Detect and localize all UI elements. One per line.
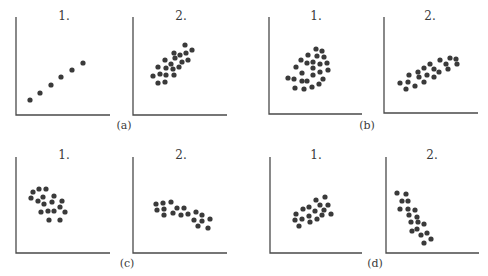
data-point bbox=[293, 211, 298, 216]
data-point bbox=[427, 61, 432, 66]
data-point bbox=[193, 209, 198, 214]
data-point bbox=[316, 81, 321, 86]
data-point bbox=[421, 65, 426, 70]
data-point bbox=[292, 85, 297, 90]
data-point bbox=[178, 212, 183, 217]
data-point bbox=[415, 69, 420, 74]
data-point bbox=[172, 55, 177, 60]
data-point bbox=[321, 207, 326, 212]
data-point bbox=[397, 206, 402, 211]
scatter-plot-c-1 bbox=[16, 157, 110, 253]
data-point bbox=[319, 48, 324, 53]
panel-title: 1. bbox=[310, 9, 321, 23]
data-point bbox=[174, 205, 179, 210]
data-point bbox=[162, 79, 167, 84]
data-point bbox=[317, 202, 322, 207]
data-point bbox=[207, 216, 212, 221]
data-point bbox=[431, 66, 436, 71]
data-point bbox=[310, 65, 315, 70]
data-point bbox=[285, 75, 290, 80]
data-point bbox=[62, 209, 67, 214]
data-point bbox=[41, 201, 46, 206]
data-point bbox=[414, 226, 419, 231]
data-point bbox=[181, 205, 186, 210]
data-point bbox=[453, 56, 458, 61]
data-point bbox=[157, 71, 162, 76]
data-point bbox=[154, 207, 159, 212]
data-point bbox=[443, 61, 448, 66]
data-point bbox=[189, 47, 194, 52]
data-point bbox=[437, 57, 442, 62]
panel-title: 2. bbox=[424, 9, 435, 23]
data-point bbox=[394, 190, 399, 195]
data-point bbox=[414, 214, 419, 219]
data-point bbox=[298, 57, 303, 62]
data-point bbox=[299, 216, 304, 221]
data-point bbox=[317, 61, 322, 66]
scatter-plot-a-2 bbox=[133, 17, 227, 115]
data-point bbox=[409, 228, 414, 233]
data-point bbox=[397, 80, 402, 85]
data-point bbox=[436, 69, 441, 74]
data-point bbox=[306, 204, 311, 209]
data-point bbox=[310, 59, 315, 64]
data-point bbox=[30, 189, 35, 194]
data-point bbox=[412, 207, 417, 212]
data-point bbox=[51, 208, 56, 213]
group-label: (c) bbox=[120, 257, 135, 270]
panel-title: 1. bbox=[310, 148, 321, 162]
data-point bbox=[292, 217, 297, 222]
panel-title: 2. bbox=[175, 9, 186, 23]
data-point bbox=[155, 80, 160, 85]
group-labels: (a)(b)(c)(d) bbox=[116, 119, 382, 270]
data-point bbox=[416, 74, 421, 79]
data-point bbox=[445, 66, 450, 71]
data-point bbox=[305, 52, 310, 57]
data-point bbox=[49, 199, 54, 204]
data-point bbox=[171, 50, 176, 55]
data-point bbox=[406, 212, 411, 217]
data-point bbox=[322, 194, 327, 199]
data-point bbox=[325, 67, 330, 72]
data-point bbox=[80, 60, 85, 65]
data-point bbox=[421, 221, 426, 226]
data-point bbox=[403, 86, 408, 91]
data-point bbox=[179, 59, 184, 64]
data-point bbox=[48, 82, 53, 87]
data-point bbox=[57, 217, 62, 222]
data-point bbox=[313, 46, 318, 51]
data-point bbox=[27, 97, 32, 102]
panel-title: 2. bbox=[426, 148, 437, 162]
data-point bbox=[421, 240, 426, 245]
group-label: (a) bbox=[116, 119, 131, 132]
data-point bbox=[170, 66, 175, 71]
data-point bbox=[161, 206, 166, 211]
data-point bbox=[328, 211, 333, 216]
group-label: (b) bbox=[359, 119, 375, 132]
data-point bbox=[317, 69, 322, 74]
data-point bbox=[310, 72, 315, 77]
data-point bbox=[205, 225, 210, 230]
plot-axes bbox=[16, 157, 110, 253]
data-point bbox=[314, 53, 319, 58]
panel-title: 1. bbox=[58, 148, 69, 162]
data-point bbox=[199, 212, 204, 217]
data-point bbox=[431, 74, 436, 79]
data-point bbox=[309, 84, 314, 89]
data-point bbox=[304, 60, 309, 65]
scatter-plot-b-2 bbox=[384, 17, 478, 113]
data-point bbox=[195, 223, 200, 228]
data-point bbox=[177, 52, 182, 57]
plot-axes bbox=[133, 157, 227, 253]
panel-titles: 1.2.1.2.1.2.1.2. bbox=[58, 9, 437, 162]
data-point bbox=[293, 64, 298, 69]
data-point bbox=[163, 72, 168, 77]
data-point bbox=[299, 78, 304, 83]
data-point bbox=[313, 197, 318, 202]
data-point bbox=[35, 198, 40, 203]
scatter-plot-b-1 bbox=[269, 17, 362, 114]
plot-axes bbox=[269, 17, 362, 114]
data-point bbox=[182, 42, 187, 47]
data-point bbox=[324, 60, 329, 65]
data-point bbox=[59, 198, 64, 203]
